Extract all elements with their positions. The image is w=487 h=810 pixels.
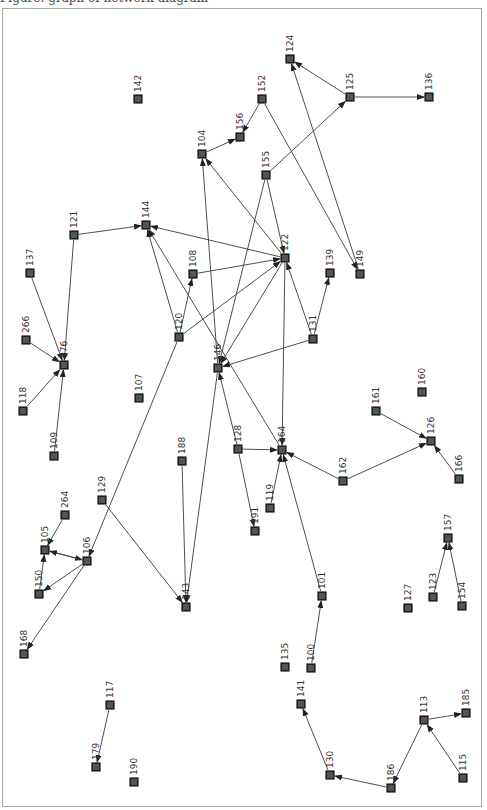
node-144[interactable]: 144 (141, 201, 151, 229)
node-square-icon[interactable] (83, 557, 91, 565)
node-143[interactable]: 143 (181, 583, 191, 611)
node-square-icon[interactable] (41, 546, 49, 554)
node-square-icon[interactable] (92, 763, 100, 771)
node-square-icon[interactable] (258, 95, 266, 103)
node-266[interactable]: 266 (21, 316, 31, 344)
node-161[interactable]: 161 (371, 387, 381, 415)
node-square-icon[interactable] (266, 504, 274, 512)
node-123[interactable]: 123 (428, 573, 438, 601)
node-square-icon[interactable] (286, 55, 294, 63)
node-129[interactable]: 129 (97, 476, 107, 504)
node-square-icon[interactable] (70, 231, 78, 239)
node-square-icon[interactable] (35, 590, 43, 598)
node-117[interactable]: 117 (105, 681, 115, 709)
node-square-icon[interactable] (26, 269, 34, 277)
node-136[interactable]: 136 (424, 73, 434, 101)
node-square-icon[interactable] (372, 407, 380, 415)
node-square-icon[interactable] (278, 446, 286, 454)
node-square-icon[interactable] (318, 592, 326, 600)
node-square-icon[interactable] (444, 534, 452, 542)
node-square-icon[interactable] (251, 527, 259, 535)
node-166[interactable]: 166 (454, 455, 464, 483)
node-191[interactable]: 191 (250, 507, 260, 535)
node-square-icon[interactable] (142, 221, 150, 229)
node-square-icon[interactable] (459, 774, 467, 782)
node-square-icon[interactable] (307, 664, 315, 672)
node-square-icon[interactable] (404, 604, 412, 612)
node-square-icon[interactable] (387, 784, 395, 792)
node-186[interactable]: 186 (386, 764, 396, 792)
node-154[interactable]: 154 (457, 582, 467, 610)
node-square-icon[interactable] (20, 650, 28, 658)
node-122[interactable]: 122 (280, 234, 290, 262)
node-square-icon[interactable] (198, 150, 206, 158)
node-188[interactable]: 188 (177, 437, 187, 465)
node-square-icon[interactable] (281, 663, 289, 671)
node-115[interactable]: 115 (458, 754, 468, 782)
node-131[interactable]: 131 (308, 315, 318, 343)
node-square-icon[interactable] (356, 270, 364, 278)
node-square-icon[interactable] (236, 133, 244, 141)
node-square-icon[interactable] (462, 709, 470, 717)
node-119[interactable]: 119 (265, 484, 275, 512)
node-105[interactable]: 105 (40, 526, 50, 554)
node-128[interactable]: 128 (233, 425, 243, 453)
node-square-icon[interactable] (326, 269, 334, 277)
node-square-icon[interactable] (50, 452, 58, 460)
node-square-icon[interactable] (297, 700, 305, 708)
node-190[interactable]: 190 (129, 758, 139, 786)
node-155[interactable]: 155 (261, 151, 271, 179)
node-square-icon[interactable] (326, 771, 334, 779)
node-179[interactable]: 179 (91, 743, 101, 771)
node-square-icon[interactable] (262, 171, 270, 179)
node-124[interactable]: 124 (285, 35, 295, 63)
node-square-icon[interactable] (234, 445, 242, 453)
node-142[interactable]: 142 (133, 75, 143, 103)
node-104[interactable]: 104 (197, 130, 207, 158)
node-137[interactable]: 137 (25, 249, 35, 277)
node-118[interactable]: 118 (18, 387, 28, 415)
node-square-icon[interactable] (19, 407, 27, 415)
node-109[interactable]: 109 (49, 432, 59, 460)
node-square-icon[interactable] (175, 333, 183, 341)
node-square-icon[interactable] (130, 778, 138, 786)
node-125[interactable]: 125 (345, 73, 355, 101)
node-176[interactable]: 176 (59, 341, 69, 369)
node-168[interactable]: 168 (19, 630, 29, 658)
node-square-icon[interactable] (425, 93, 433, 101)
node-126[interactable]: 126 (426, 417, 436, 445)
node-square-icon[interactable] (135, 394, 143, 402)
node-130[interactable]: 130 (325, 751, 335, 779)
node-square-icon[interactable] (189, 270, 197, 278)
node-square-icon[interactable] (178, 457, 186, 465)
node-157[interactable]: 157 (443, 514, 453, 542)
node-square-icon[interactable] (281, 254, 289, 262)
node-square-icon[interactable] (418, 388, 426, 396)
node-square-icon[interactable] (429, 593, 437, 601)
node-square-icon[interactable] (98, 496, 106, 504)
node-162[interactable]: 162 (338, 457, 348, 485)
node-square-icon[interactable] (455, 475, 463, 483)
node-156[interactable]: 156 (235, 113, 245, 141)
node-139[interactable]: 139 (325, 249, 335, 277)
node-square-icon[interactable] (427, 437, 435, 445)
node-152[interactable]: 152 (257, 75, 267, 103)
node-264[interactable]: 264 (60, 491, 70, 519)
node-108[interactable]: 108 (188, 250, 198, 278)
node-107[interactable]: 107 (134, 374, 144, 402)
node-141[interactable]: 141 (296, 680, 306, 708)
node-square-icon[interactable] (420, 716, 428, 724)
node-square-icon[interactable] (339, 477, 347, 485)
node-101[interactable]: 101 (317, 572, 327, 600)
node-149[interactable]: 149 (355, 250, 365, 278)
node-135[interactable]: 135 (280, 643, 290, 671)
node-square-icon[interactable] (214, 364, 222, 372)
node-square-icon[interactable] (60, 361, 68, 369)
node-150[interactable]: 150 (34, 570, 44, 598)
node-square-icon[interactable] (346, 93, 354, 101)
node-square-icon[interactable] (309, 335, 317, 343)
node-square-icon[interactable] (61, 511, 69, 519)
node-185[interactable]: 185 (461, 689, 471, 717)
node-square-icon[interactable] (22, 336, 30, 344)
node-square-icon[interactable] (182, 603, 190, 611)
